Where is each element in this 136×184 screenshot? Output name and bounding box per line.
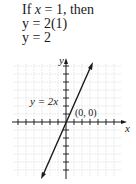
plotted-line bbox=[41, 62, 93, 179]
y-axis-label: y bbox=[58, 54, 64, 66]
axes bbox=[12, 58, 127, 179]
graph-y-equals-2x: x y y = 2x (0, 0) bbox=[0, 0, 136, 184]
y-axis-arrow-icon bbox=[64, 58, 68, 64]
x-axis-label: x bbox=[124, 122, 130, 134]
origin-point-label: (0, 0) bbox=[75, 107, 97, 119]
line-arrow-up-icon bbox=[88, 62, 93, 70]
equation-label: y = 2x bbox=[29, 95, 58, 107]
